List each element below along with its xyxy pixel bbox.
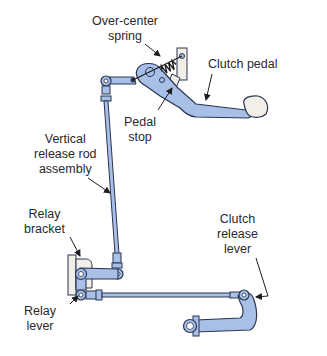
horizontal-release-rod: [86, 290, 240, 300]
label-vertical-release-rod: Vertical release rod assembly: [34, 132, 97, 177]
label-clutch-pedal: Clutch pedal: [208, 57, 278, 72]
pedal-bracket: [177, 48, 187, 80]
vertical-release-rod: [101, 76, 123, 279]
label-over-center-spring: Over-center spring: [92, 14, 158, 44]
label-relay-bracket: Relay bracket: [24, 207, 65, 237]
label-pedal-stop: Pedal stop: [124, 115, 156, 145]
label-relay-lever: Relay lever: [24, 304, 56, 334]
clutch-linkage-diagram: [0, 0, 327, 356]
label-clutch-release-lever: Clutch release lever: [217, 212, 258, 257]
